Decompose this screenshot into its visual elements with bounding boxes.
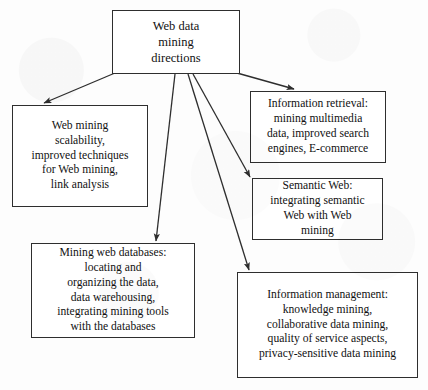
diagram-canvas: Web data mining directions Web mining sc… — [0, 0, 428, 390]
node-information-management[interactable]: Information management: knowledge mining… — [237, 272, 418, 378]
node-web-mining[interactable]: Web mining scalability, improved techniq… — [12, 105, 148, 207]
connector-root-to-web-mining — [44, 73, 115, 103]
node-information-retrieval[interactable]: Information retrieval: mining multimedia… — [250, 91, 386, 163]
node-label: Information retrieval: mining multimedia… — [251, 97, 385, 156]
connector-root-to-mining-web-databases — [156, 74, 175, 241]
node-semantic-web[interactable]: Semantic Web: integrating semantic Web w… — [252, 178, 383, 240]
node-label: Web data mining directions — [113, 18, 239, 66]
connector-root-to-semantic-web — [193, 74, 250, 177]
node-mining-web-databases[interactable]: Mining web databases: locating and organ… — [31, 243, 195, 338]
node-label: Web mining scalability, improved techniq… — [13, 119, 147, 193]
connector-root-to-info-retrieval — [237, 73, 294, 89]
node-label: Semantic Web: integrating semantic Web w… — [253, 179, 382, 238]
connector-root-to-info-management — [188, 74, 249, 270]
node-label: Mining web databases: locating and organ… — [32, 246, 194, 335]
node-label: Information management: knowledge mining… — [238, 288, 417, 362]
node-web-data-mining-directions[interactable]: Web data mining directions — [112, 10, 240, 74]
